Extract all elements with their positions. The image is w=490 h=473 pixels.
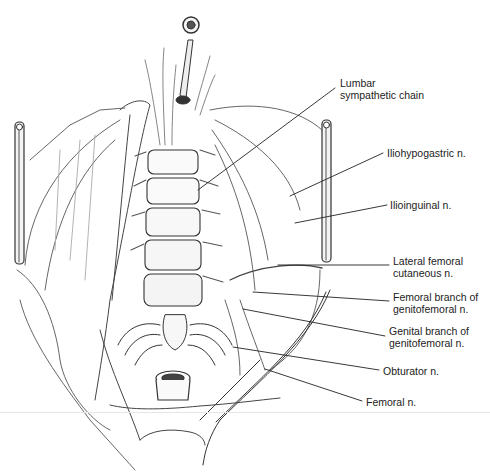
label-ilioinguinal: Ilioinguinal n. [390, 199, 451, 211]
leader-femoral [265, 369, 362, 401]
right-psoas-iliacus-icon [210, 106, 322, 375]
label-lateral-femoral-cutaneous: Lateral femoral cutaneous n. [393, 255, 463, 279]
right-groin-structures-icon [200, 290, 330, 465]
leader-obturator [233, 347, 379, 370]
label-femoral: Femoral n. [366, 396, 416, 408]
top-retractor-icon [176, 17, 199, 104]
label-femoral-branch-genitofemoral: Femoral branch of genitofemoral n. [393, 291, 478, 315]
label-iliohypogastric: Iliohypogastric n. [387, 147, 466, 159]
sacrum-icon [118, 315, 232, 365]
leader-lines [198, 88, 389, 401]
leader-iliohypogastric [290, 153, 383, 196]
drawing-canvas [0, 0, 490, 473]
label-lumbar-sympathetic-chain: Lumbar sympathetic chain [340, 77, 424, 101]
leader-ilioinguinal [295, 205, 387, 223]
rectum-icon [156, 371, 190, 400]
page-divider [0, 412, 490, 413]
label-obturator: Obturator n. [383, 365, 439, 377]
vertebral-column-icon [131, 150, 223, 306]
right-retractor-icon [322, 120, 331, 262]
label-genital-branch-genitofemoral: Genital branch of genitofemoral n. [389, 325, 469, 349]
pelvic-floor-icon [110, 398, 280, 445]
leader-femoral-branch-genitofemoral [253, 292, 389, 301]
left-retractor-icon [15, 122, 24, 264]
left-abdominal-wall-icon [17, 108, 135, 470]
anatomical-illustration: Lumbar sympathetic chain Iliohypogastric… [0, 0, 490, 473]
